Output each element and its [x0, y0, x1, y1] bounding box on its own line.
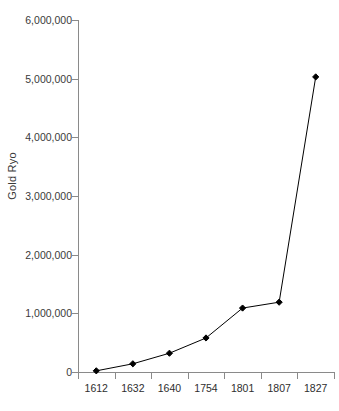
data-point-marker: [93, 368, 99, 374]
x-axis-tick-label: 1827: [304, 382, 327, 394]
x-axis-tick-mark: [151, 373, 152, 379]
y-axis-tick-mark: [72, 313, 78, 314]
x-axis-tick-mark: [261, 373, 262, 379]
x-axis-tick-mark: [334, 373, 335, 379]
x-axis-tick-label: 1612: [85, 382, 108, 394]
x-axis-tick-mark: [188, 373, 189, 379]
x-axis-tick-mark: [297, 373, 298, 379]
series-plot-area: [0, 0, 339, 411]
x-axis-tick-mark: [115, 373, 116, 379]
data-point-marker: [166, 350, 172, 356]
y-axis-tick-mark: [72, 20, 78, 21]
y-axis-tick-mark: [72, 255, 78, 256]
x-axis-tick-label: 1807: [267, 382, 290, 394]
series-line-gold-ryo: [96, 77, 315, 371]
y-axis-tick-mark: [72, 137, 78, 138]
series-markers: [93, 74, 319, 374]
x-axis-tick-label: 1632: [121, 382, 144, 394]
y-axis-tick-mark: [72, 196, 78, 197]
line-chart: Gold Ryo 01,000,0002,000,0003,000,0004,0…: [0, 0, 339, 411]
x-axis-tick-mark: [224, 373, 225, 379]
x-axis-tick-mark: [78, 373, 79, 379]
x-axis-tick-label: 1754: [194, 382, 217, 394]
data-point-marker: [130, 361, 136, 367]
data-point-marker: [313, 74, 319, 80]
x-axis-tick-label: 1640: [158, 382, 181, 394]
y-axis-tick-mark: [72, 79, 78, 80]
x-axis-tick-label: 1801: [231, 382, 254, 394]
data-point-marker: [276, 299, 282, 305]
